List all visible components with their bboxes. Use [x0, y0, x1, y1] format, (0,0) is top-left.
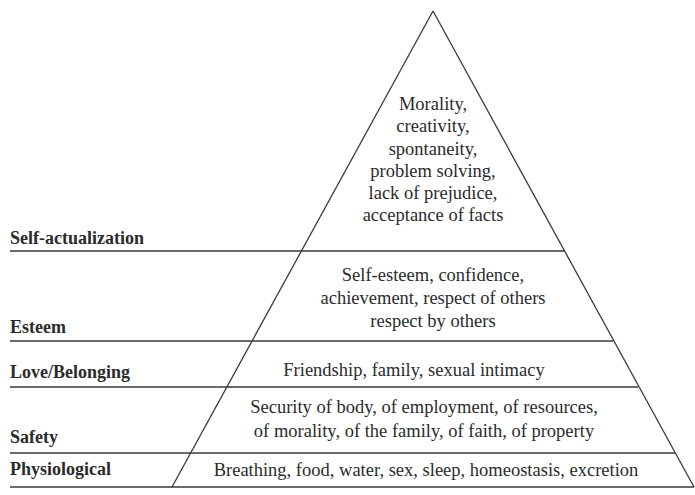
tier-label-self-actualization: Self-actualization: [10, 229, 144, 247]
love-belonging-line-1: Friendship, family, sexual intimacy: [283, 361, 544, 380]
self-actualization-line-5: lack of prejudice,: [369, 184, 498, 203]
self-actualization-line-4: problem solving,: [370, 162, 495, 181]
esteem-line-3: respect by others: [370, 312, 495, 331]
physiological-line-1: Breathing, food, water, sex, sleep, home…: [214, 461, 639, 480]
tier-label-love-belonging: Love/Belonging: [10, 363, 130, 381]
esteem-line-2: achievement, respect of others: [321, 289, 546, 308]
esteem-line-1: Self-esteem, confidence,: [342, 266, 524, 285]
tier-label-physiological: Physiological: [10, 460, 111, 478]
safety-line-1: Security of body, of employment, of reso…: [250, 398, 598, 417]
safety-line-2: of morality, of the family, of faith, of…: [254, 422, 594, 441]
tier-label-esteem: Esteem: [10, 318, 66, 336]
self-actualization-line-1: Morality,: [399, 95, 467, 114]
self-actualization-line-3: spontaneity,: [389, 140, 478, 159]
self-actualization-line-6: acceptance of facts: [363, 206, 504, 225]
self-actualization-line-2: creativity,: [396, 117, 469, 136]
maslow-pyramid-diagram: Morality, creativity, spontaneity, probl…: [0, 0, 695, 495]
tier-label-safety: Safety: [10, 428, 58, 446]
